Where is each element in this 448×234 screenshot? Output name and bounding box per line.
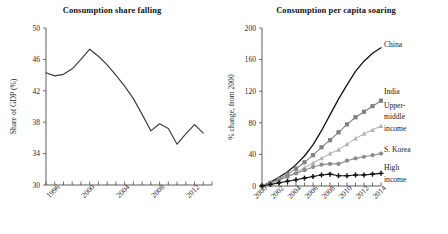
data-point-marker xyxy=(353,115,357,119)
data-point-marker xyxy=(302,160,306,164)
data-point-marker xyxy=(370,172,375,177)
data-point-marker xyxy=(379,123,384,128)
y-tick-label-left: 46 xyxy=(32,55,40,64)
data-point-marker xyxy=(311,153,315,157)
data-point-marker xyxy=(336,173,341,178)
chart-panel-consumption-share: Consumption share falling 30343842465019… xyxy=(0,0,224,234)
data-point-marker xyxy=(319,172,324,177)
data-point-marker xyxy=(345,142,350,147)
y-tick-label-right: 80 xyxy=(248,119,256,128)
chart-svg-right: 0408012016020020002002200420062008201020… xyxy=(224,0,448,234)
data-point-marker xyxy=(362,172,367,177)
chart-panel-consumption-per-capita: Consumption per capita soaring 040801201… xyxy=(224,0,448,234)
data-point-marker xyxy=(362,110,366,114)
data-point-marker xyxy=(336,162,340,166)
data-point-marker xyxy=(285,174,289,178)
series-label-5: S. Korea xyxy=(384,145,411,154)
data-point-marker xyxy=(345,122,349,126)
data-point-marker xyxy=(328,162,332,166)
series-label-4: income xyxy=(384,124,407,133)
data-point-marker xyxy=(311,161,316,166)
y-tick-label-left: 42 xyxy=(32,87,40,96)
data-point-marker xyxy=(319,156,324,161)
data-point-marker xyxy=(311,174,316,179)
data-point-marker xyxy=(353,136,358,141)
data-point-marker xyxy=(370,153,374,157)
y-tick-label-left: 30 xyxy=(32,181,40,190)
data-point-marker xyxy=(336,130,340,134)
data-point-marker xyxy=(294,177,299,182)
data-point-marker xyxy=(362,155,366,159)
y-tick-label-left: 38 xyxy=(32,118,40,127)
figure-container: Consumption share falling 30343842465019… xyxy=(0,0,448,234)
chart-svg-left: 30343842465019962000200420082012Share of… xyxy=(0,0,224,234)
data-point-marker xyxy=(328,172,333,177)
series-label-2: Upper- xyxy=(384,101,406,110)
data-point-marker xyxy=(345,159,349,163)
data-point-marker xyxy=(285,179,290,184)
data-point-marker xyxy=(379,99,383,103)
series-label-6: High xyxy=(384,163,399,172)
y-axis-title-left: Share of GDP (%) xyxy=(9,78,18,134)
data-point-marker xyxy=(353,172,358,177)
y-tick-label-right: 200 xyxy=(245,24,257,33)
y-tick-label-left: 50 xyxy=(32,24,40,33)
y-tick-label-right: 40 xyxy=(248,150,256,159)
data-point-marker xyxy=(370,104,374,108)
data-point-marker xyxy=(328,138,332,142)
series-label-0: China xyxy=(384,40,403,49)
data-point-marker xyxy=(353,156,357,160)
data-point-marker xyxy=(319,163,323,167)
series-label-3: middle xyxy=(384,112,406,121)
series-label-7: income xyxy=(384,175,407,184)
y-axis-title-right: % change, from 2000 xyxy=(227,74,236,140)
data-point-marker xyxy=(345,173,350,178)
data-point-marker xyxy=(302,176,307,181)
data-line-share-of-gdp xyxy=(46,49,203,144)
y-tick-label-right: 160 xyxy=(245,55,257,64)
data-point-marker xyxy=(302,168,306,172)
y-tick-label-right: 120 xyxy=(245,87,257,96)
data-point-marker xyxy=(336,147,341,152)
data-point-marker xyxy=(294,171,298,175)
series-label-1: India xyxy=(384,87,400,96)
data-point-marker xyxy=(311,165,315,169)
data-point-marker xyxy=(379,171,384,176)
data-point-marker xyxy=(319,145,323,149)
data-point-marker xyxy=(379,152,383,156)
y-tick-label-left: 34 xyxy=(32,149,40,158)
